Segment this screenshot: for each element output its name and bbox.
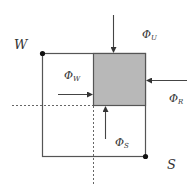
- subscript-w: W: [73, 75, 81, 83]
- subscript-s: S: [124, 142, 129, 150]
- corner-dot-w: [40, 51, 45, 56]
- flux-diagram: W S ΦU ΦW ΦR ΦS: [0, 0, 196, 194]
- subscript-r: R: [177, 98, 184, 106]
- flux-label-w: ΦW: [64, 69, 81, 83]
- corner-label-s: S: [167, 157, 176, 172]
- flux-label-u: ΦU: [142, 28, 158, 42]
- corner-label-w: W: [14, 37, 29, 52]
- phi-symbol: Φ: [142, 28, 151, 41]
- subscript-u: U: [151, 34, 158, 42]
- corner-dot-s: [143, 154, 148, 159]
- phi-symbol: Φ: [169, 92, 178, 105]
- flux-label-r: ΦR: [169, 92, 184, 106]
- flux-label-s: ΦS: [115, 136, 129, 150]
- phi-symbol: Φ: [115, 136, 124, 149]
- shaded-cell: [94, 54, 146, 106]
- phi-symbol: Φ: [64, 69, 73, 82]
